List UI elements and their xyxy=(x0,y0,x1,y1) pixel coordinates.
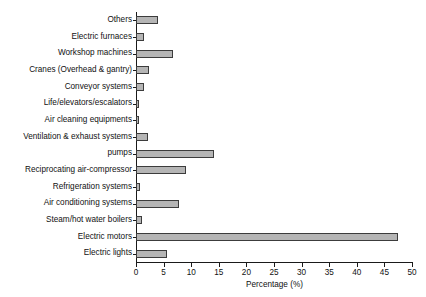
x-axis-tick-label: 0 xyxy=(124,268,148,278)
y-axis-tick-label: Steam/hot water boilers xyxy=(0,212,132,229)
y-axis-tick-label: Electric furnaces xyxy=(0,29,132,46)
x-axis-tick-label: 50 xyxy=(400,268,424,278)
x-axis-tick-label: 5 xyxy=(152,268,176,278)
bar-row xyxy=(136,62,412,79)
y-axis-tick-label: Workshop machines xyxy=(0,45,132,62)
bar-row xyxy=(136,79,412,96)
x-axis-tick xyxy=(136,263,137,267)
x-axis-title: Percentage (%) xyxy=(136,280,413,289)
bar xyxy=(136,216,142,224)
bar-row xyxy=(136,179,412,196)
y-axis-tick-label: Air cleaning equipments xyxy=(0,112,132,129)
bar xyxy=(136,33,144,41)
x-axis-tick xyxy=(246,263,247,267)
x-axis-tick-label: 20 xyxy=(234,268,258,278)
bar xyxy=(136,183,140,191)
y-axis-tick-label: Others xyxy=(0,12,132,29)
bar-row xyxy=(136,112,412,129)
x-axis-tick-label: 40 xyxy=(345,268,369,278)
bar xyxy=(136,200,179,208)
bar-row xyxy=(136,162,412,179)
bar-row xyxy=(136,129,412,146)
bar xyxy=(136,150,214,158)
bar-row xyxy=(136,145,412,162)
x-axis-tick xyxy=(384,263,385,267)
plot-area xyxy=(136,12,412,262)
y-axis-tick-label: Conveyor systems xyxy=(0,79,132,96)
bar-row xyxy=(136,229,412,246)
bar-row xyxy=(136,195,412,212)
bar-row xyxy=(136,95,412,112)
y-axis-tick-label: Refrigeration systems xyxy=(0,179,132,196)
x-axis-tick-label: 30 xyxy=(290,268,314,278)
bar-chart: OthersElectric furnacesWorkshop machines… xyxy=(0,0,426,297)
x-axis-tick-label: 45 xyxy=(372,268,396,278)
x-axis-tick-label: 10 xyxy=(179,268,203,278)
bar-row xyxy=(136,212,412,229)
bar-row xyxy=(136,29,412,46)
bar-row xyxy=(136,245,412,262)
x-axis-tick xyxy=(357,263,358,267)
y-axis-tick-label: pumps xyxy=(0,145,132,162)
x-axis-tick-label: 35 xyxy=(317,268,341,278)
bar xyxy=(136,116,139,124)
y-axis-tick-label: Electric motors xyxy=(0,229,132,246)
bar xyxy=(136,250,167,258)
x-axis-tick-label: 15 xyxy=(207,268,231,278)
x-axis-tick xyxy=(219,263,220,267)
bar xyxy=(136,100,139,108)
bar xyxy=(136,233,398,241)
x-axis-tick xyxy=(329,263,330,267)
bar xyxy=(136,66,149,74)
y-axis-tick-label: Cranes (Overhead & gantry) xyxy=(0,62,132,79)
x-axis-tick xyxy=(274,263,275,267)
bar-row xyxy=(136,45,412,62)
y-axis-tick-label: Reciprocating air-compressor xyxy=(0,162,132,179)
x-axis-tick xyxy=(191,263,192,267)
y-axis-tick-label: Electric lights xyxy=(0,245,132,262)
bar-row xyxy=(136,12,412,29)
bar xyxy=(136,133,148,141)
x-axis-tick xyxy=(412,263,413,267)
y-axis-tick-label: Air conditioning systems xyxy=(0,195,132,212)
bar xyxy=(136,166,186,174)
bar xyxy=(136,83,144,91)
x-axis-tick-label: 25 xyxy=(262,268,286,278)
bar xyxy=(136,16,158,24)
x-axis-tick xyxy=(164,263,165,267)
x-axis-tick xyxy=(302,263,303,267)
y-axis-tick-label: Life/elevators/escalators xyxy=(0,95,132,112)
y-axis-tick-label: Ventilation & exhaust systems xyxy=(0,129,132,146)
bar xyxy=(136,50,173,58)
